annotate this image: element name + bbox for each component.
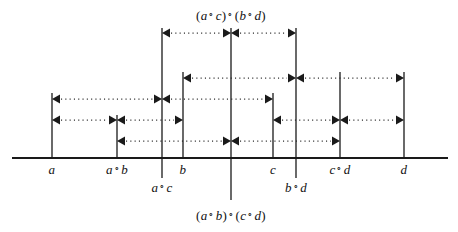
- arrowhead-left-r4-s0: [117, 137, 125, 146]
- arrowhead-right-r0-s1: [288, 29, 296, 38]
- bottom-expression-label: (a∘b)∘(c∘d): [196, 208, 266, 224]
- arrowhead-left-r4-s1: [231, 137, 239, 146]
- arrowhead-right-r1-s0: [288, 74, 296, 83]
- point-label-a: a: [49, 162, 56, 178]
- point-label-bd: b∘d: [285, 180, 307, 196]
- point-label-b: b: [180, 162, 187, 178]
- point-label-ab: a∘b: [106, 162, 128, 178]
- arrowhead-left-r0-s1: [231, 29, 239, 38]
- arrowhead-left-r1-s1: [296, 74, 304, 83]
- arrowhead-right-r1-s1: [396, 74, 404, 83]
- point-label-ac: a∘c: [151, 180, 172, 196]
- top-expression-label: (a∘c)∘(b∘d): [196, 8, 266, 24]
- arrowhead-right-r4-s0: [223, 137, 231, 146]
- arrowhead-right-r3-s1: [175, 116, 183, 125]
- arrowhead-left-r0-s0: [162, 29, 170, 38]
- arrowhead-left-r3-s3: [340, 116, 348, 125]
- arrowhead-right-r2-s0: [154, 95, 162, 104]
- interval-arrow-rows: [52, 29, 404, 146]
- arrowhead-right-r2-s1: [265, 95, 273, 104]
- arrowhead-left-r3-s2: [273, 116, 281, 125]
- point-label-cd: c∘d: [329, 162, 350, 178]
- arrowhead-right-r0-s0: [223, 29, 231, 38]
- point-label-c: c: [270, 162, 276, 178]
- point-label-d: d: [401, 162, 408, 178]
- arrowhead-left-r1-s0: [183, 74, 191, 83]
- arrowhead-left-r3-s0: [52, 116, 60, 125]
- arrowhead-left-r2-s0: [52, 95, 60, 104]
- arrowhead-right-r3-s2: [332, 116, 340, 125]
- arrowhead-right-r3-s0: [109, 116, 117, 125]
- arrowhead-left-r2-s1: [162, 95, 170, 104]
- arrowhead-left-r3-s1: [117, 116, 125, 125]
- vertical-marker-lines: [52, 28, 404, 200]
- arrowhead-right-r3-s3: [396, 116, 404, 125]
- interval-diagram: [0, 0, 458, 232]
- arrowhead-right-r4-s1: [332, 137, 340, 146]
